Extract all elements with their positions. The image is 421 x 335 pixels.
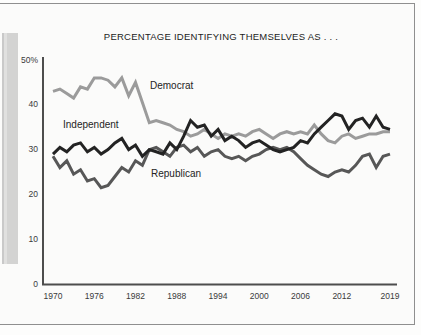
x-axis-tick-label: 2012 xyxy=(320,291,364,301)
x-axis-tick-label: 2019 xyxy=(368,291,412,301)
y-axis-tick-label: 40 xyxy=(0,99,38,109)
democrat-line-label: Democrat xyxy=(150,80,193,91)
y-axis-tick-label: 50% xyxy=(0,55,38,65)
independent-line-label: Independent xyxy=(63,119,119,130)
x-axis-tick-label: 1988 xyxy=(155,291,199,301)
x-axis-tick-label: 2000 xyxy=(237,291,281,301)
y-axis-tick-label: 30 xyxy=(0,144,38,154)
x-axis-tick-label: 1976 xyxy=(72,291,116,301)
x-axis-tick-label: 1970 xyxy=(31,291,75,301)
x-axis-tick-label: 1994 xyxy=(196,291,240,301)
x-axis-tick-label: 1982 xyxy=(114,291,158,301)
y-axis-tick-label: 0 xyxy=(0,279,38,289)
republican-line-label: Republican xyxy=(151,168,201,179)
x-axis-tick-label: 2006 xyxy=(279,291,323,301)
y-axis-tick-label: 20 xyxy=(0,189,38,199)
y-axis-tick-label: 10 xyxy=(0,234,38,244)
party-identification-chart xyxy=(0,0,421,335)
figure-canvas: PERCENTAGE IDENTIFYING THEMSELVES AS . .… xyxy=(0,0,421,335)
